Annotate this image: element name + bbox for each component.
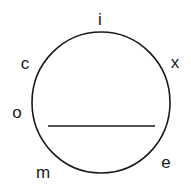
circle [32,32,170,173]
label-i: i [98,10,102,29]
label-x: x [171,53,180,72]
label-m: m [36,163,50,182]
label-o: o [12,103,21,122]
label-e: e [161,153,170,172]
circle-diagram: i c x o m e [0,0,191,186]
label-c: c [21,54,30,73]
